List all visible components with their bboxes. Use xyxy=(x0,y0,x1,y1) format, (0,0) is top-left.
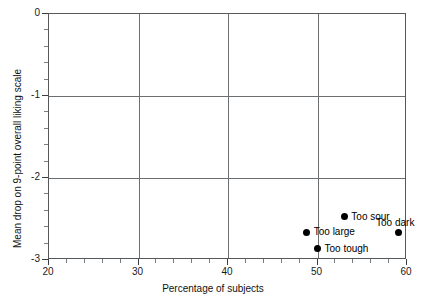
y-tick-label: 0 xyxy=(34,8,40,18)
data-point-label: Too dark xyxy=(376,218,414,228)
data-point xyxy=(341,213,348,220)
x-tick-minor xyxy=(352,259,353,263)
x-tick-minor xyxy=(173,259,174,263)
gridline-vertical xyxy=(318,14,319,258)
scatter-chart: Mean drop on 9-point overall liking scal… xyxy=(0,0,426,306)
data-point xyxy=(395,229,402,236)
x-tick-major xyxy=(406,259,407,265)
gridline-vertical xyxy=(228,14,229,258)
x-tick-minor xyxy=(370,259,371,263)
x-tick-minor xyxy=(263,259,264,263)
data-point-label: Too large xyxy=(314,227,355,237)
x-tick-label: 20 xyxy=(33,267,63,277)
y-tick-label: -3 xyxy=(31,254,40,264)
x-tick-minor xyxy=(209,259,210,263)
x-tick-minor xyxy=(84,259,85,263)
x-tick-minor xyxy=(245,259,246,263)
x-tick-minor xyxy=(281,259,282,263)
x-tick-major xyxy=(227,259,228,265)
x-tick-minor xyxy=(102,259,103,263)
data-point xyxy=(303,229,310,236)
x-tick-major xyxy=(317,259,318,265)
data-point-label: Too tough xyxy=(325,244,369,254)
x-tick-label: 30 xyxy=(123,267,153,277)
x-tick-minor xyxy=(334,259,335,263)
x-tick-minor xyxy=(66,259,67,263)
data-point xyxy=(314,245,321,252)
x-tick-label: 40 xyxy=(212,267,242,277)
x-tick-minor xyxy=(299,259,300,263)
gridline-vertical xyxy=(139,14,140,258)
x-tick-minor xyxy=(155,259,156,263)
x-tick-major xyxy=(138,259,139,265)
x-tick-minor xyxy=(120,259,121,263)
x-tick-minor xyxy=(191,259,192,263)
x-axis-title: Percentage of subjects xyxy=(0,283,426,294)
y-tick-label: -1 xyxy=(31,90,40,100)
x-tick-label: 60 xyxy=(391,267,421,277)
gridline-horizontal xyxy=(49,96,405,97)
y-axis-title: Mean drop on 9-point overall liking scal… xyxy=(12,69,23,248)
plot-area: Too toughToo largeToo sourToo dark xyxy=(48,13,406,259)
gridline-horizontal xyxy=(49,178,405,179)
x-tick-major xyxy=(48,259,49,265)
x-tick-label: 50 xyxy=(302,267,332,277)
y-tick-label: -2 xyxy=(31,172,40,182)
x-tick-minor xyxy=(388,259,389,263)
